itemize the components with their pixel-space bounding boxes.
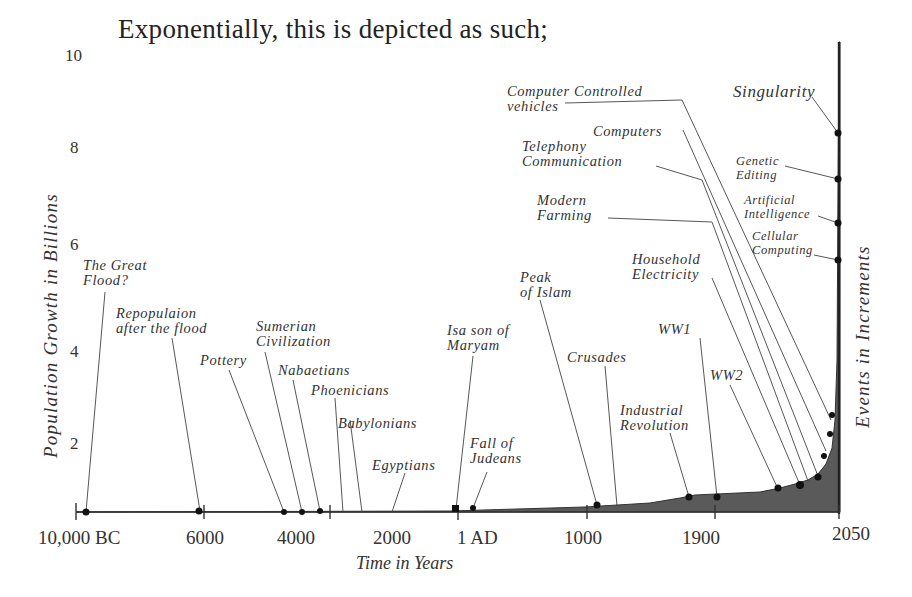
event-crusades: Crusades [567, 350, 627, 365]
event-industrial: Industrial Revolution [620, 403, 689, 433]
y-tick-4: 4 [70, 342, 79, 362]
y-tick-2: 2 [70, 434, 79, 454]
y-tick-10: 10 [65, 46, 82, 66]
x-tick-1900: 1900 [682, 527, 720, 549]
event-repopulation: Repopulaion after the flood [116, 306, 207, 336]
event-phoenicians: Phoenicians [311, 383, 389, 398]
x-tick-1ad: 1 AD [457, 527, 498, 549]
event-genetic: Genetic Editing [736, 154, 779, 182]
event-ai: Artificial Intelligence [744, 193, 810, 221]
y-axis-label: Population Growth in Billions [40, 193, 62, 458]
population-area [76, 42, 840, 512]
x-tick-6000: 6000 [186, 527, 224, 549]
event-electricity: Household Electricity [632, 252, 700, 282]
event-judeans: Fall of Judeans [470, 436, 522, 466]
event-babylonians: Babylonians [338, 416, 417, 431]
event-sumerian: Sumerian Civilization [256, 319, 331, 349]
event-farming: Modern Farming [537, 193, 592, 223]
x-tick-1000: 1000 [564, 527, 602, 549]
x-tick-2000: 2000 [373, 527, 411, 549]
event-peak-of-islam: Peak of Islam [520, 270, 572, 300]
event-computers: Computers [593, 124, 662, 139]
event-telephony: Telephony Communication [522, 139, 622, 169]
x-axis-label: Time in Years [356, 553, 453, 574]
event-nabaetians: Nabaetians [278, 363, 350, 378]
event-cellular: Cellular Computing [752, 229, 813, 257]
event-pottery: Pottery [200, 353, 247, 368]
y2-axis-label: Events in Increments [852, 245, 874, 428]
x-tick-2050: 2050 [832, 523, 870, 545]
event-singularity: Singularity [733, 84, 815, 99]
event-vehicles: Computer Controlled vehicles [507, 84, 642, 114]
y-tick-8: 8 [70, 138, 79, 158]
chart-title: Exponentially, this is depicted as such; [118, 14, 548, 45]
x-tick-10000bc: 10,000 BC [38, 527, 120, 549]
event-great-flood: The Great Flood? [83, 258, 147, 288]
event-egyptians: Egyptians [372, 458, 435, 473]
leader-lines [86, 97, 838, 512]
event-ww1: WW1 [658, 322, 691, 337]
event-ww2: WW2 [710, 368, 743, 383]
x-tick-4000: 4000 [277, 527, 315, 549]
event-isa: Isa son of Maryam [447, 323, 509, 353]
y-tick-6: 6 [70, 235, 79, 255]
